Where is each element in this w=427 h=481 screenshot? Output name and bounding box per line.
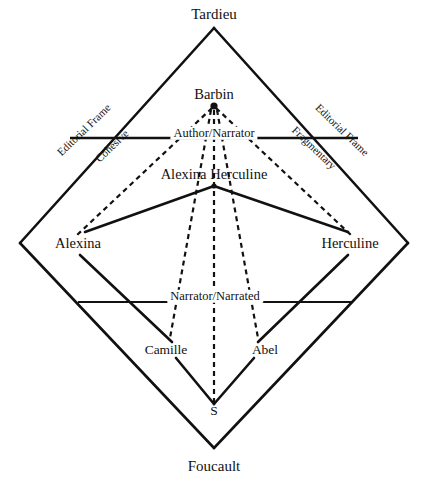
node-label-alexina-herculine: Alexina Herculine	[161, 167, 268, 182]
line-abel-to-s	[214, 358, 254, 404]
semiotic-square-diagram: Tardieu Foucault Alexina Herculine Barbi…	[0, 0, 427, 481]
alexina-herculine-apex-dot	[211, 183, 216, 188]
dashed-barbin-to-camille	[170, 110, 211, 338]
node-label-abel: Abel	[252, 343, 278, 357]
vertex-label-right: Herculine	[321, 236, 378, 251]
axis-label-author-narrator: Author/Narrator	[170, 127, 257, 140]
node-label-s: S	[210, 404, 218, 418]
axis-label-narrator-narrated: Narrator/Narrated	[167, 290, 263, 303]
barbin-node-dot	[210, 102, 217, 109]
line-herculine-to-abel	[258, 255, 348, 342]
composite-node-branches	[85, 186, 348, 232]
node-label-camille: Camille	[145, 343, 188, 357]
line-camille-to-s	[176, 358, 214, 404]
dashed-barbin-to-abel	[217, 110, 258, 338]
node-label-barbin: Barbin	[194, 87, 233, 102]
vertex-label-top: Tardieu	[191, 7, 237, 22]
line-alexina-to-camille	[80, 255, 172, 342]
vertex-label-left: Alexina	[55, 236, 101, 251]
frame-edge-bottom-right	[214, 243, 408, 448]
vertex-label-bottom: Foucault	[188, 459, 241, 474]
